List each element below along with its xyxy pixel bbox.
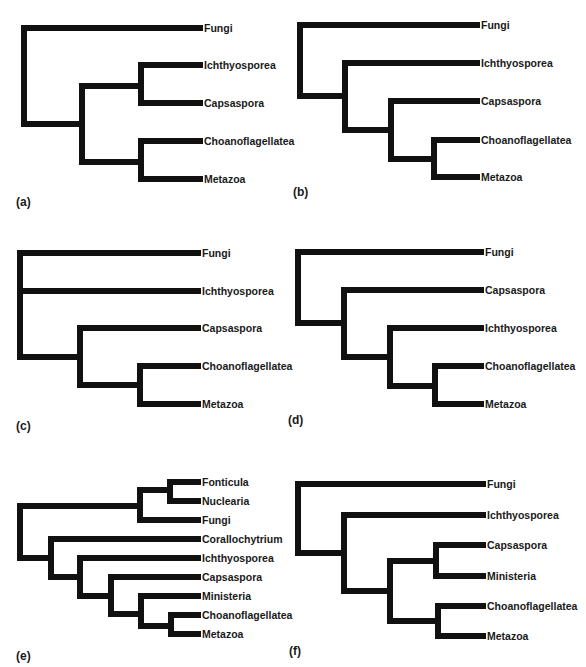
tree-panel-e: Fonticula Nuclearia Fungi Corallochytriu… [16, 476, 293, 663]
tree-panel-f: Fungi Ichthyosporea Capsaspora Ministeri… [289, 478, 578, 658]
tree-panel-b: Fungi Ichthyosporea Capsaspora Choanofla… [293, 19, 572, 199]
taxon-label: Choanoflagellatea [485, 360, 576, 372]
taxon-label: Capsaspora [485, 284, 545, 296]
taxon-label: Metazoa [202, 628, 244, 640]
panel-label-a: (a) [16, 195, 31, 209]
taxon-label: Fungi [487, 478, 516, 490]
taxon-label: Metazoa [487, 630, 529, 642]
taxon-label: Choanoflagellatea [202, 360, 293, 372]
taxon-label: Choanoflagellatea [487, 600, 578, 612]
taxon-label: Capsaspora [481, 95, 541, 107]
taxon-label: Fungi [202, 247, 231, 259]
taxon-label: Ministeria [487, 570, 536, 582]
taxon-label: Ichthyosporea [204, 59, 276, 71]
taxon-label: Ichthyosporea [481, 57, 553, 69]
taxon-label: Nuclearia [202, 495, 249, 507]
taxon-label: Capsaspora [204, 97, 264, 109]
taxon-label: Ichthyosporea [487, 509, 559, 521]
taxon-label: Choanoflagellatea [481, 134, 572, 146]
phylogeny-figure: Fungi Ichthyosporea Capsaspora Choanofla… [0, 0, 586, 667]
taxon-label: Fungi [485, 246, 514, 258]
taxon-label: Fonticula [202, 476, 249, 488]
taxon-label: Choanoflagellatea [204, 135, 295, 147]
taxon-label: Capsaspora [202, 571, 262, 583]
panel-label-b: (b) [293, 185, 308, 199]
taxon-label: Capsaspora [487, 539, 547, 551]
taxon-label: Ichthyosporea [202, 285, 274, 297]
panel-label-f: (f) [289, 644, 301, 658]
taxon-label: Capsaspora [202, 322, 262, 334]
tree-panel-c: Fungi Ichthyosporea Capsaspora Choanofla… [16, 247, 293, 433]
taxon-label: Metazoa [481, 171, 523, 183]
panel-label-d: (d) [288, 413, 303, 427]
panel-label-e: (e) [16, 649, 31, 663]
taxon-label: Corallochytrium [202, 533, 283, 545]
tree-panel-d: Fungi Capsaspora Ichthyosporea Choanofla… [288, 246, 576, 427]
taxon-label: Ichthyosporea [202, 552, 274, 564]
taxon-label: Ministeria [202, 590, 251, 602]
taxon-label: Fungi [204, 22, 233, 34]
taxon-label: Fungi [202, 514, 231, 526]
taxon-label: Metazoa [202, 398, 244, 410]
panel-label-c: (c) [16, 419, 31, 433]
taxon-label: Fungi [481, 19, 510, 31]
taxon-label: Ichthyosporea [485, 322, 557, 334]
tree-panel-a: Fungi Ichthyosporea Capsaspora Choanofla… [16, 22, 295, 209]
taxon-label: Metazoa [485, 398, 527, 410]
taxon-label: Metazoa [204, 173, 246, 185]
taxon-label: Choanoflagellatea [202, 609, 293, 621]
